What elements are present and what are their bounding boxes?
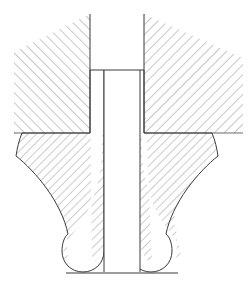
cross-section-figure: Cross-section of a flanged bulb-footed f… bbox=[0, 0, 251, 290]
upper-left-hatched-member bbox=[14, 14, 90, 133]
upper-right-member-hatch-fill bbox=[144, 14, 243, 133]
upper-left-member-hatch-fill bbox=[14, 14, 90, 133]
central-bore-fill bbox=[104, 70, 140, 275]
upper-right-hatched-member bbox=[144, 14, 243, 133]
technical-drawing-canvas: Cross-section of a flanged bulb-footed f… bbox=[0, 0, 251, 290]
